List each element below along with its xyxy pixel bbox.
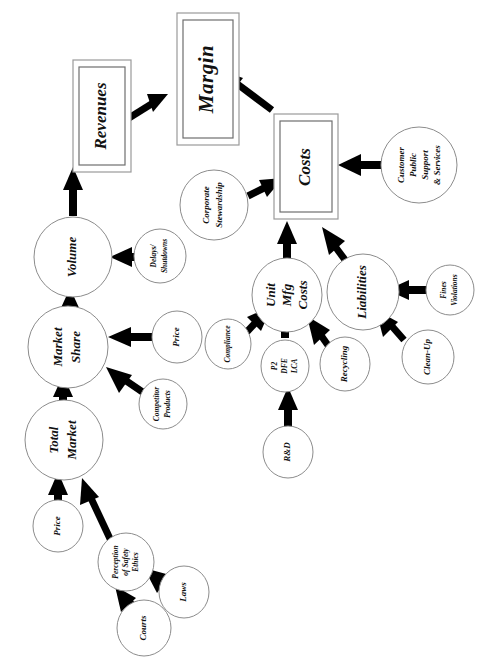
- node-margin-label: Margin: [194, 45, 218, 114]
- node-recycling[interactable]: Recycling: [320, 337, 370, 391]
- edge-price-to-marketshare: [108, 327, 152, 347]
- svg-text:Market: Market: [50, 327, 65, 367]
- node-rnd-label: R&D: [282, 442, 292, 463]
- node-market-share[interactable]: Market Share: [28, 306, 108, 388]
- svg-text:Total: Total: [46, 426, 61, 453]
- svg-text:Share: Share: [68, 331, 83, 363]
- node-liabilities-label: Liabilities: [354, 265, 369, 319]
- node-unit-mfg-costs[interactable]: Unit Mfg Costs: [252, 258, 322, 332]
- svg-text:Support: Support: [420, 150, 430, 180]
- node-price-total-market[interactable]: Price: [33, 500, 83, 552]
- node-laws[interactable]: Laws: [159, 566, 209, 618]
- svg-text:Stewardship: Stewardship: [214, 182, 224, 228]
- node-costs-label: Costs: [295, 148, 314, 186]
- edge-rnd-to-p2dfelca: [278, 387, 298, 427]
- node-liabilities[interactable]: Liabilities: [327, 254, 399, 330]
- node-customer-support[interactable]: Customer Public Support & Services: [381, 127, 457, 203]
- edge-custsupport-to-costs: [338, 154, 381, 176]
- svg-text:Delays/: Delays/: [149, 244, 158, 269]
- svg-text:of Safety: of Safety: [121, 548, 130, 576]
- node-price-market-share[interactable]: Price: [152, 311, 202, 363]
- node-total-market[interactable]: Total Market: [25, 400, 103, 480]
- node-compliance[interactable]: Compliance: [205, 319, 251, 369]
- node-courts[interactable]: Courts: [117, 600, 171, 656]
- influence-diagram: Margin Revenues Costs Volume Market Shar…: [0, 0, 496, 666]
- node-laws-label: Laws: [178, 582, 188, 603]
- svg-text:Competitor: Competitor: [152, 387, 161, 422]
- svg-text:Public: Public: [408, 153, 418, 177]
- node-revenues-label: Revenues: [91, 82, 110, 150]
- node-compliance-label: Compliance: [223, 325, 232, 363]
- edge-volume-to-revenues: [63, 167, 83, 216]
- svg-text:DFE: DFE: [280, 358, 289, 374]
- svg-text:& Services: & Services: [432, 145, 442, 185]
- node-margin[interactable]: Margin: [177, 13, 239, 145]
- edge-unitmfg-to-costs: [277, 221, 297, 258]
- svg-text:Violations: Violations: [450, 274, 459, 305]
- node-p2-dfe-lca[interactable]: P2 DFE LCA: [261, 340, 309, 392]
- svg-text:P2: P2: [270, 362, 279, 371]
- node-corporate-stewardship[interactable]: Corporate Stewardship: [180, 170, 248, 240]
- node-unit-mfg-costs-label: Unit Mfg Costs: [263, 281, 310, 310]
- node-rnd[interactable]: R&D: [263, 426, 313, 478]
- node-recycling-label: Recycling: [339, 345, 349, 383]
- node-costs[interactable]: Costs: [274, 114, 338, 219]
- svg-text:Costs: Costs: [295, 281, 310, 310]
- node-delays-shutdowns[interactable]: Delays/ Shutdowns: [134, 229, 186, 283]
- node-price-market-share-label: Price: [171, 327, 181, 347]
- svg-text:Customer: Customer: [396, 147, 406, 184]
- node-revenues[interactable]: Revenues: [73, 60, 131, 172]
- svg-text:Shutdowns: Shutdowns: [160, 239, 169, 273]
- diagram-canvas: Margin Revenues Costs Volume Market Shar…: [0, 0, 496, 666]
- node-volume-label: Volume: [64, 237, 79, 278]
- svg-text:Market: Market: [64, 420, 79, 460]
- node-competitor-products[interactable]: Competitor Products: [139, 379, 187, 429]
- svg-text:Mfg: Mfg: [279, 283, 294, 307]
- svg-text:Unit: Unit: [263, 283, 278, 307]
- node-cleanup[interactable]: Clean-Up: [402, 330, 454, 384]
- svg-text:Products: Products: [163, 390, 172, 418]
- node-cleanup-label: Clean-Up: [422, 339, 432, 376]
- svg-text:LCA: LCA: [290, 359, 299, 375]
- node-volume[interactable]: Volume: [34, 217, 112, 297]
- node-fines-violations[interactable]: Fines Violations: [426, 265, 474, 315]
- svg-text:Perception: Perception: [111, 545, 120, 578]
- svg-text:Fines: Fines: [439, 281, 448, 299]
- edge-competitor-to-marketshare: [106, 367, 144, 393]
- node-courts-label: Courts: [138, 615, 148, 641]
- svg-text:Ethics: Ethics: [131, 552, 140, 573]
- svg-text:Corporate: Corporate: [201, 186, 211, 224]
- node-perception-safety-ethics[interactable]: Perception of Safety Ethics: [98, 533, 154, 591]
- node-price-total-market-label: Price: [52, 516, 62, 536]
- edge-perception-to-totalmarket: [80, 478, 112, 543]
